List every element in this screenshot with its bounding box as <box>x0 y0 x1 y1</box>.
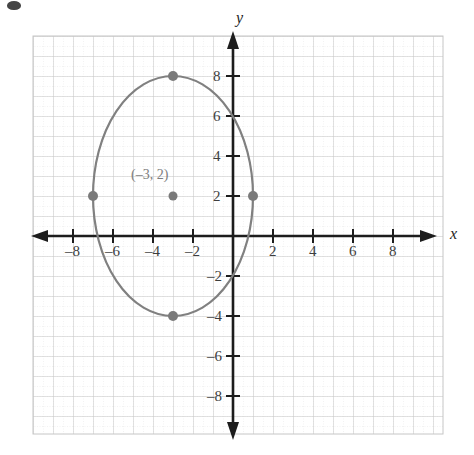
point-top-vertex <box>168 71 178 81</box>
y-tick-label-8: 8 <box>213 69 221 84</box>
x-tick-label--4: –4 <box>145 244 160 259</box>
x-tick-label-2: 2 <box>269 244 277 259</box>
point-right-covertex <box>248 191 258 201</box>
point-center <box>169 192 178 201</box>
y-tick-label--4: –4 <box>207 309 222 324</box>
x-tick-label--2: –2 <box>185 244 200 259</box>
point-bottom-vertex <box>168 311 178 321</box>
x-tick-label-8: 8 <box>389 244 397 259</box>
y-tick-label-6: 6 <box>213 109 221 124</box>
y-tick-label--2: –2 <box>207 269 222 284</box>
coordinate-plane-svg <box>0 0 474 455</box>
y-tick-label-2: 2 <box>213 189 221 204</box>
x-tick-label--6: –6 <box>105 244 120 259</box>
y-tick-label-4: 4 <box>213 149 221 164</box>
x-tick-label-6: 6 <box>349 244 357 259</box>
y-tick-label--6: –6 <box>207 349 222 364</box>
x-axis-label: x <box>450 226 457 242</box>
y-axis-label: y <box>236 10 243 26</box>
x-tick-label-4: 4 <box>309 244 317 259</box>
y-tick-label--8: –8 <box>207 389 222 404</box>
graph-figure: –8 –6 –4 –2 2 4 6 8 8 6 4 2 –2 –4 –6 –8 … <box>0 0 474 455</box>
center-point-label: (–3, 2) <box>131 168 168 182</box>
point-left-covertex <box>88 191 98 201</box>
x-tick-label--8: –8 <box>65 244 80 259</box>
